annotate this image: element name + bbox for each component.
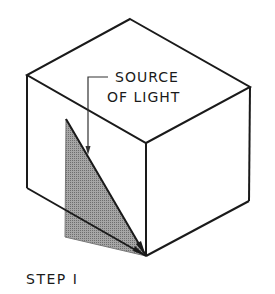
callout-label-line1: SOURCE [115,68,179,86]
isometric-cube-diagram: SOURCE OF LIGHT STEP I [0,0,275,294]
step-label: STEP I [26,270,78,288]
cube-drawing [0,0,275,294]
callout-label-line2: OF LIGHT [107,88,180,106]
cube-edges [27,19,250,256]
